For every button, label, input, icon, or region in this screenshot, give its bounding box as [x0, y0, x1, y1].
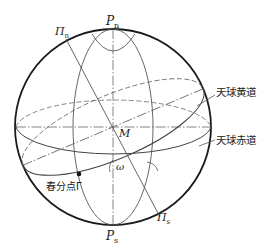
center-label: M — [118, 127, 131, 140]
celestial-sphere-diagram: Pn Ps Πn Πs M ω 春分点Γ 天球黄道 天球赤道 — [0, 0, 274, 244]
omega-label: ω — [116, 161, 124, 172]
vernal-equinox-point — [77, 172, 82, 177]
equator-leader — [199, 140, 215, 146]
equator-front — [16, 127, 211, 154]
ecliptic-south-pole-label: Πs — [156, 211, 171, 226]
ecliptic-front — [23, 89, 216, 195]
omega-arc-right — [147, 162, 158, 171]
north-pole-label: Pn — [105, 14, 119, 30]
ecliptic-back — [10, 59, 203, 165]
equator-back — [16, 100, 211, 127]
ecliptic-label: 天球黄道 — [216, 86, 257, 98]
south-pole-label: Ps — [105, 229, 118, 244]
ecliptic-north-pole-label: Πn — [54, 25, 70, 40]
equator-label: 天球赤道 — [216, 134, 257, 146]
vernal-equinox-label: 春分点Γ — [46, 181, 82, 192]
